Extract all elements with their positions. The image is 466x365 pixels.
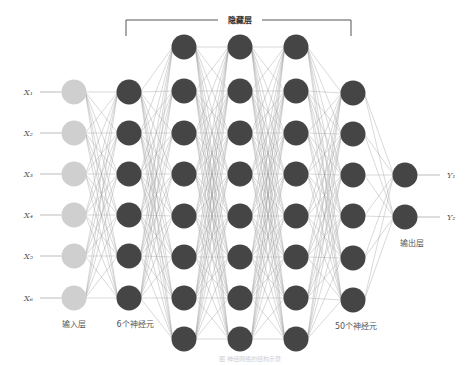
input-label: X₆ (23, 294, 34, 303)
output-neuron (393, 205, 418, 230)
connection-edge (307, 216, 342, 339)
connection-edge (364, 134, 394, 217)
input-label: X₄ (23, 211, 33, 220)
connection-edge (307, 91, 342, 93)
connection-edge (364, 93, 394, 217)
hidden-layer-bracket: 隐藏层 (126, 15, 351, 36)
hidden-4-neuron (284, 79, 309, 104)
hidden-4-neuron (284, 35, 309, 60)
connection-edge (140, 91, 173, 92)
hidden-3-neuron (228, 286, 253, 311)
hidden-2-neuron (172, 79, 197, 104)
input-label: X₁ (23, 88, 33, 97)
hidden-4-neuron (284, 286, 309, 311)
hidden-3-neuron (228, 121, 253, 146)
input-neuron (62, 203, 87, 228)
hidden-1-neuron (117, 203, 142, 228)
hidden-4-neuron (284, 245, 309, 270)
hidden-3-neuron (228, 327, 253, 352)
hidden-1-neuron (117, 162, 142, 187)
input-label: X₃ (23, 170, 33, 179)
output-label: Y₂ (447, 213, 456, 222)
hidden-1-neuron (117, 286, 142, 311)
hidden-1-neuron (117, 244, 142, 269)
connection-edge (307, 93, 342, 133)
input-neuron (62, 286, 87, 311)
hidden-5-neuron (341, 163, 366, 188)
input-label: X₂ (23, 129, 33, 138)
hidden-layer-title: 隐藏层 (228, 15, 252, 25)
connection-edge (364, 217, 394, 300)
hidden-2-neuron (172, 286, 197, 311)
connection-edge (307, 91, 342, 134)
hidden-5-neuron (341, 288, 366, 313)
connection-edge (307, 93, 342, 298)
hidden-4-neuron (284, 327, 309, 352)
connection-edge (140, 47, 173, 215)
input-neuron (62, 244, 87, 269)
hidden-4-neuron (284, 204, 309, 229)
hidden-3-neuron (228, 204, 253, 229)
input-neuron (62, 121, 87, 146)
hidden-3-neuron (228, 245, 253, 270)
hidden-4-neuron (284, 162, 309, 187)
input-label: X₅ (23, 252, 34, 261)
hidden-2-neuron (172, 245, 197, 270)
hidden-5-neuron (341, 246, 366, 271)
layer-label: 输出层 (400, 238, 424, 248)
connection-edge (364, 175, 394, 258)
output-label: Y₁ (447, 171, 456, 180)
hidden-3-neuron (228, 79, 253, 104)
input-neuron (62, 162, 87, 187)
hidden-2-neuron (172, 121, 197, 146)
hidden-1-neuron (117, 80, 142, 105)
hidden-5-neuron (341, 204, 366, 229)
neural-network-diagram: 隐藏层 X₁X₂X₃X₄X₅X₆Y₁Y₂输入层6个神经元50个神经元输出层 图 … (0, 0, 466, 365)
connection-edge (364, 134, 394, 175)
connection-edge (140, 47, 173, 133)
hidden-2-neuron (172, 35, 197, 60)
figure-caption: 图 神经网络的结构示意 (219, 355, 281, 363)
hidden-2-neuron (172, 204, 197, 229)
hidden-5-neuron (341, 122, 366, 147)
layer-label: 6个神经元 (116, 319, 153, 329)
hidden-3-neuron (228, 35, 253, 60)
connection-edge (364, 93, 394, 175)
hidden-3-neuron (228, 162, 253, 187)
connection-edge (307, 47, 342, 134)
output-neuron (393, 163, 418, 188)
hidden-2-neuron (172, 162, 197, 187)
hidden-2-neuron (172, 327, 197, 352)
neuron-nodes (62, 35, 418, 352)
connection-edge (307, 300, 342, 339)
bracket-left-line (126, 20, 218, 36)
connection-edge (140, 47, 173, 298)
connection-edge (307, 134, 342, 339)
connection-edge (364, 175, 394, 300)
bracket-right-line (262, 20, 351, 36)
hidden-4-neuron (284, 121, 309, 146)
layer-label: 输入层 (62, 319, 86, 329)
connection-edge (140, 298, 173, 339)
hidden-5-neuron (341, 81, 366, 106)
hidden-1-neuron (117, 121, 142, 146)
input-neuron (62, 80, 87, 105)
layer-label: 50个神经元 (335, 321, 377, 331)
